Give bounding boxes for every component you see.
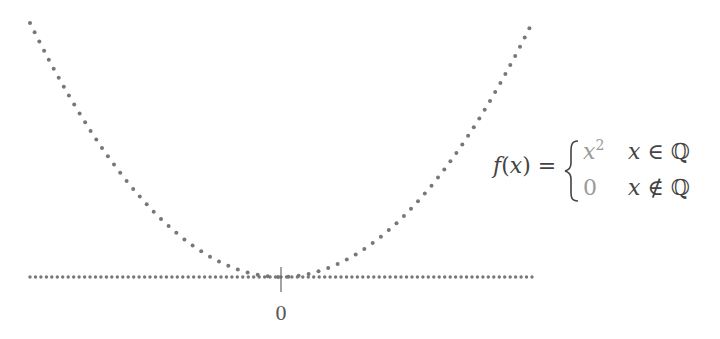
- zero-line-dot: [394, 275, 397, 278]
- zero-line-dot: [323, 275, 326, 278]
- zero-line-dot: [219, 275, 222, 278]
- zero-line-dot: [214, 275, 217, 278]
- zero-line-dot: [143, 275, 146, 278]
- parabola-dot: [345, 258, 349, 262]
- zero-line-dot: [154, 275, 157, 278]
- parabola-dot: [28, 21, 32, 25]
- parabola-dot: [217, 260, 221, 264]
- cases-brace: [565, 141, 578, 201]
- parabola-curve: [28, 21, 531, 279]
- zero-line-dot: [198, 275, 201, 278]
- zero-line-dot: [290, 275, 293, 278]
- zero-line-dot: [405, 275, 408, 278]
- parabola-dot: [33, 30, 37, 34]
- zero-line-dot: [421, 275, 424, 278]
- zero-line-dot: [116, 275, 119, 278]
- parabola-dot: [317, 269, 321, 273]
- zero-line-dot: [476, 275, 479, 278]
- parabola-dot: [256, 273, 260, 277]
- parabola-dot: [72, 103, 76, 107]
- zero-line-dot: [181, 275, 184, 278]
- parabola-dot: [112, 163, 116, 167]
- parabola-dot: [131, 187, 135, 191]
- case-1-condition: x ∈ ℚ: [628, 139, 690, 164]
- parabola-dot: [118, 171, 122, 175]
- case-1-value: x2: [583, 137, 604, 164]
- zero-line-dot: [503, 275, 506, 278]
- zero-line-dot: [165, 275, 168, 278]
- parabola-dot: [513, 54, 517, 58]
- zero-line-dot: [67, 275, 70, 278]
- parabola-dot: [83, 120, 87, 124]
- zero-line-dot: [427, 275, 430, 278]
- parabola-dot: [466, 134, 470, 138]
- parabola-dot: [37, 39, 41, 43]
- zero-line-dot: [263, 275, 266, 278]
- parabola-dot: [174, 231, 178, 235]
- zero-line-dot: [56, 275, 59, 278]
- parabola-dot: [62, 85, 66, 89]
- zero-line-dot: [372, 275, 375, 278]
- zero-line-dot: [236, 275, 239, 278]
- zero-line-dot: [34, 275, 37, 278]
- function-definition: f(x) = x2 x ∈ ℚ 0 x ∉ ℚ: [491, 137, 690, 201]
- parabola-dot: [354, 253, 358, 257]
- parabola-dot: [138, 195, 142, 199]
- case-2-value: 0: [583, 175, 597, 200]
- parabola-dot: [307, 272, 311, 276]
- parabola-dot: [100, 146, 104, 150]
- zero-line-dot: [525, 275, 528, 278]
- zero-line-dot: [438, 275, 441, 278]
- zero-line-dot: [28, 275, 31, 278]
- parabola-dot: [488, 99, 492, 103]
- parabola-dot: [518, 45, 522, 49]
- zero-line-dot: [61, 275, 64, 278]
- zero-line-dot: [388, 275, 391, 278]
- parabola-dot: [159, 217, 163, 221]
- parabola-dot: [395, 221, 399, 225]
- parabola-dot: [106, 154, 110, 158]
- parabola-dot: [477, 117, 481, 121]
- zero-line-dot: [148, 275, 151, 278]
- zero-line-dot: [465, 275, 468, 278]
- zero-line-dot: [137, 275, 140, 278]
- zero-line-dot: [127, 275, 130, 278]
- zero-line-dot: [487, 275, 490, 278]
- parabola-dot: [454, 151, 458, 155]
- parabola-dot: [167, 224, 171, 228]
- parabola-dot: [430, 184, 434, 188]
- parabola-dot: [145, 202, 149, 206]
- parabola-dot: [297, 274, 301, 278]
- zero-line-dot: [312, 275, 315, 278]
- parabola-dot: [493, 90, 497, 94]
- parabola-dot: [409, 207, 413, 211]
- parabola-dot: [182, 237, 186, 241]
- zero-line-dot: [247, 275, 250, 278]
- zero-line-dot: [361, 275, 364, 278]
- zero-line-dot: [509, 275, 512, 278]
- zero-line-dot: [432, 275, 435, 278]
- zero-line-dot: [328, 275, 331, 278]
- parabola-dot: [503, 72, 507, 76]
- parabola-dot: [52, 67, 56, 71]
- case-2-condition: x ∉ ℚ: [628, 175, 690, 200]
- zero-line-dot: [94, 275, 97, 278]
- zero-line-dot: [50, 275, 53, 278]
- zero-line-dot: [176, 275, 179, 278]
- parabola-dot: [276, 275, 280, 279]
- zero-line-dot: [356, 275, 359, 278]
- parabola-dot: [94, 137, 98, 141]
- zero-line-dot: [121, 275, 124, 278]
- parabola-dot: [402, 214, 406, 218]
- zero-line-dot: [339, 275, 342, 278]
- parabola-dot: [498, 81, 502, 85]
- dirichlet-like-function-diagram: 0 f(x) = x2 x ∈ ℚ 0 x ∉ ℚ: [0, 0, 720, 339]
- zero-line-dot: [459, 275, 462, 278]
- zero-line-dot: [170, 275, 173, 278]
- zero-line-dot: [334, 275, 337, 278]
- zero-line-dot: [230, 275, 233, 278]
- parabola-dot: [423, 192, 427, 196]
- parabola-dot: [47, 58, 51, 62]
- zero-line-dot: [88, 275, 91, 278]
- parabola-dot: [125, 179, 129, 183]
